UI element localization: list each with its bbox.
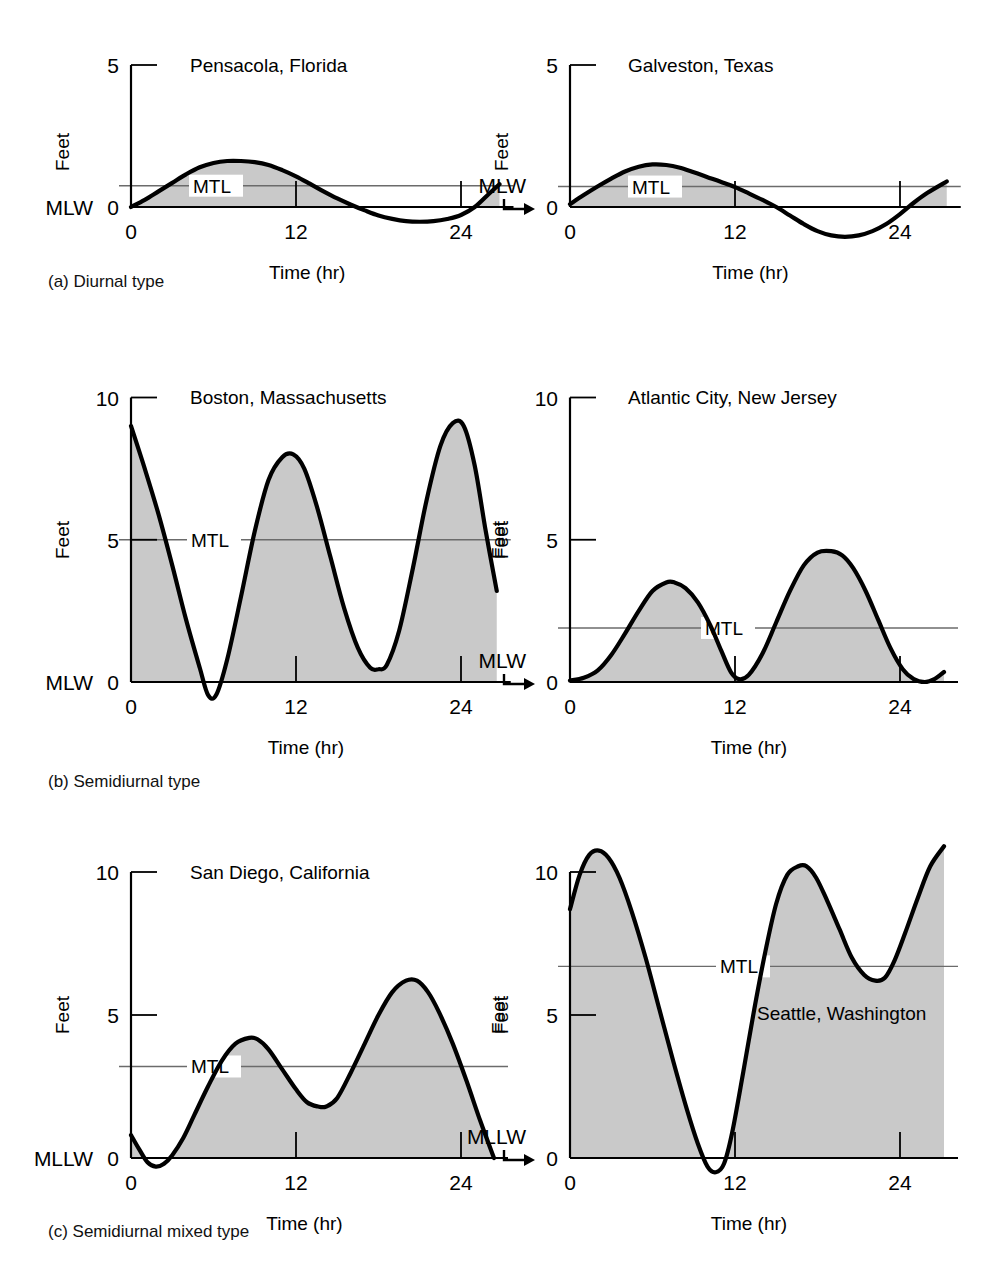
mtl-label-pensacola: MTL xyxy=(193,176,231,197)
x-tick-label-san-diego-24: 24 xyxy=(449,1171,473,1194)
tide-panel-san-diego: MTL051001224MLLWSan Diego, CaliforniaFee… xyxy=(34,861,508,1234)
x-axis-title-seattle: Time (hr) xyxy=(711,1213,787,1234)
x-tick-label-galveston-0: 0 xyxy=(564,220,576,243)
tide-panel-galveston: MTL0501224MLWGalveston, TexasFeetTime (h… xyxy=(479,54,961,283)
datum-arrowhead-seattle xyxy=(524,1154,535,1166)
panel-title-seattle: Seattle, Washington xyxy=(757,1003,926,1024)
tide-panel-seattle: MTL051001224MLLWSeattle, WashingtonFeetT… xyxy=(467,846,958,1234)
panel-title-galveston: Galveston, Texas xyxy=(628,55,773,76)
y-axis-title-pensacola: Feet xyxy=(52,132,73,171)
x-tick-label-seattle-0: 0 xyxy=(564,1171,576,1194)
x-tick-label-pensacola-24: 24 xyxy=(449,220,473,243)
x-axis-title-san-diego: Time (hr) xyxy=(266,1213,342,1234)
x-tick-label-seattle-24: 24 xyxy=(888,1171,912,1194)
datum-label-pensacola: MLW xyxy=(46,196,94,219)
panel-title-boston: Boston, Massachusetts xyxy=(190,387,386,408)
y-tick-label-san-diego-10: 10 xyxy=(96,861,119,884)
datum-label-seattle: MLLW xyxy=(467,1125,526,1148)
y-tick-label-seattle-10: 10 xyxy=(535,861,558,884)
y-tick-label-galveston-5: 5 xyxy=(546,54,558,77)
x-tick-label-boston-12: 12 xyxy=(284,695,307,718)
y-axis-title-boston: Feet xyxy=(52,520,73,559)
x-tick-label-san-diego-0: 0 xyxy=(125,1171,137,1194)
x-axis-title-pensacola: Time (hr) xyxy=(269,262,345,283)
y-tick-label-san-diego-0: 0 xyxy=(107,1147,119,1170)
mtl-label-galveston: MTL xyxy=(632,177,670,198)
x-tick-label-atlantic-city-0: 0 xyxy=(564,695,576,718)
mtl-label-boston: MTL xyxy=(191,530,229,551)
tide-curves-canvas: MTL0501224MLWPensacola, FloridaFeetTime … xyxy=(0,0,1005,1282)
x-tick-label-galveston-12: 12 xyxy=(723,220,746,243)
x-tick-label-pensacola-0: 0 xyxy=(125,220,137,243)
tide-fill-boston xyxy=(131,421,497,699)
x-axis-title-galveston: Time (hr) xyxy=(712,262,788,283)
y-tick-label-atlantic-city-5: 5 xyxy=(546,529,558,552)
panel-title-san-diego: San Diego, California xyxy=(190,862,370,883)
tide-fill-pensacola xyxy=(131,161,500,222)
tide-fill-san-diego xyxy=(131,979,494,1166)
tide-curves-figure: MTL0501224MLWPensacola, FloridaFeetTime … xyxy=(0,0,1005,1282)
x-tick-label-seattle-12: 12 xyxy=(723,1171,746,1194)
y-tick-label-san-diego-5: 5 xyxy=(107,1004,119,1027)
x-tick-label-atlantic-city-12: 12 xyxy=(723,695,746,718)
x-tick-label-galveston-24: 24 xyxy=(888,220,912,243)
y-tick-label-boston-5: 5 xyxy=(107,529,119,552)
x-axis-title-atlantic-city: Time (hr) xyxy=(711,737,787,758)
mtl-label-seattle: MTL xyxy=(720,956,758,977)
y-tick-label-atlantic-city-0: 0 xyxy=(546,671,558,694)
y-axis-title-san-diego: Feet xyxy=(52,995,73,1034)
y-axis-title-secondary-0: Feet xyxy=(488,520,509,559)
y-tick-label-atlantic-city-10: 10 xyxy=(535,387,558,410)
group-caption-a: (a) Diurnal type xyxy=(48,272,164,292)
tide-panel-boston: MTL051001224MLWBoston, MassachusettsFeet… xyxy=(46,387,511,759)
datum-arrowhead-atlantic-city xyxy=(524,678,535,690)
group-caption-c: (c) Semidiurnal mixed type xyxy=(48,1222,249,1242)
panel-title-pensacola: Pensacola, Florida xyxy=(190,55,348,76)
x-tick-label-boston-24: 24 xyxy=(449,695,473,718)
datum-label-atlantic-city: MLW xyxy=(479,649,527,672)
group-caption-b: (b) Semidiurnal type xyxy=(48,772,200,792)
y-tick-label-pensacola-5: 5 xyxy=(107,54,119,77)
tide-panel-pensacola: MTL0501224MLWPensacola, FloridaFeetTime … xyxy=(46,54,514,283)
x-tick-label-atlantic-city-24: 24 xyxy=(888,695,912,718)
x-axis-title-boston: Time (hr) xyxy=(268,737,344,758)
datum-label-boston: MLW xyxy=(46,671,94,694)
datum-label-galveston: MLW xyxy=(479,174,527,197)
datum-label-san-diego: MLLW xyxy=(34,1147,93,1170)
y-tick-label-seattle-5: 5 xyxy=(546,1004,558,1027)
panel-title-atlantic-city: Atlantic City, New Jersey xyxy=(628,387,837,408)
datum-arrowhead-galveston xyxy=(524,203,535,215)
x-tick-label-boston-0: 0 xyxy=(125,695,137,718)
x-tick-label-pensacola-12: 12 xyxy=(284,220,307,243)
x-tick-label-san-diego-12: 12 xyxy=(284,1171,307,1194)
y-axis-title-secondary-1: Feet xyxy=(488,995,509,1034)
tide-panel-atlantic-city: MTL051001224MLWAtlantic City, New Jersey… xyxy=(479,387,958,759)
y-tick-label-galveston-0: 0 xyxy=(546,196,558,219)
y-tick-label-pensacola-0: 0 xyxy=(107,196,119,219)
y-tick-label-seattle-0: 0 xyxy=(546,1147,558,1170)
y-axis-title-galveston: Feet xyxy=(491,132,512,171)
y-tick-label-boston-0: 0 xyxy=(107,671,119,694)
y-tick-label-boston-10: 10 xyxy=(96,387,119,410)
